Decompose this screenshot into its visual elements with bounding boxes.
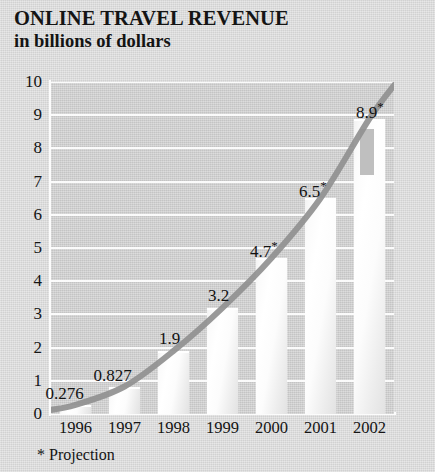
bar-top-highlight xyxy=(60,405,91,407)
title-block: ONLINE TRAVEL REVENUE in billions of dol… xyxy=(14,6,424,52)
chart-figure: ONLINE TRAVEL REVENUE in billions of dol… xyxy=(0,0,435,472)
gridline xyxy=(51,280,394,282)
x-tick-label: 2001 xyxy=(296,419,346,437)
bar-value-label: 6.5* xyxy=(299,177,327,200)
gridline xyxy=(51,82,394,83)
bar xyxy=(207,308,238,414)
x-tick-label: 1999 xyxy=(198,419,248,437)
bar-value-label: 0.276 xyxy=(46,385,84,402)
bar xyxy=(109,387,140,414)
chart-subtitle: in billions of dollars xyxy=(14,30,424,52)
y-tick-label: 5 xyxy=(2,239,42,256)
gridline xyxy=(51,181,394,183)
y-tick-label: 1 xyxy=(2,372,42,389)
x-tick-label: 1997 xyxy=(100,419,150,437)
y-tick-label: 10 xyxy=(2,73,42,90)
y-tick-label: 9 xyxy=(2,106,42,123)
bar-value-label: 3.2 xyxy=(208,287,229,304)
y-tick-label: 7 xyxy=(2,173,42,190)
plot-area xyxy=(51,82,394,414)
bar xyxy=(158,351,189,414)
y-tick-label: 8 xyxy=(2,139,42,156)
bar-top-highlight xyxy=(207,308,238,310)
y-tick-label: 2 xyxy=(2,339,42,356)
gridline xyxy=(51,114,394,116)
bar xyxy=(256,258,287,414)
gridline xyxy=(51,214,394,216)
bar-top-highlight xyxy=(109,387,140,389)
bar xyxy=(60,405,91,414)
chart-title: ONLINE TRAVEL REVENUE xyxy=(14,6,424,30)
y-tick-label: 0 xyxy=(2,405,42,422)
x-tick-label: 1998 xyxy=(149,419,199,437)
gridline xyxy=(51,247,394,249)
y-tick-label: 3 xyxy=(2,305,42,322)
bar-value-label: 0.827 xyxy=(94,367,132,384)
x-tick-label: 2000 xyxy=(247,419,297,437)
bar-value-label: 8.9* xyxy=(356,98,384,121)
bar-shade-patch xyxy=(360,129,374,175)
x-tick-label: 1996 xyxy=(51,419,101,437)
bar-top-highlight xyxy=(158,351,189,353)
bar-value-label: 1.9 xyxy=(159,330,180,347)
y-tick-label: 4 xyxy=(2,272,42,289)
bar xyxy=(305,198,336,414)
y-tick-label: 6 xyxy=(2,206,42,223)
gridline xyxy=(51,147,394,149)
footnote-projection: * Projection xyxy=(37,446,115,464)
bar-value-label: 4.7* xyxy=(250,237,278,260)
x-tick-label: 2002 xyxy=(345,419,395,437)
